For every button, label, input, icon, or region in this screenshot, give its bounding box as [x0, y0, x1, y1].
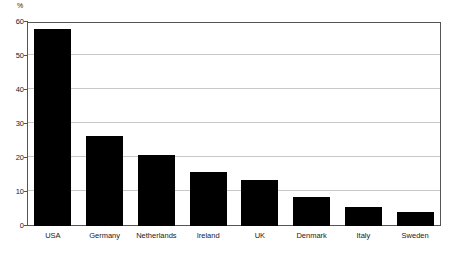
y-axis-tick-label: 20 — [2, 154, 24, 162]
y-axis-tick-labels: 0102030405060 — [0, 22, 24, 226]
x-axis-tick-label: UK — [234, 231, 286, 241]
x-axis-tick-label: Italy — [338, 231, 390, 241]
bar — [293, 197, 330, 226]
y-axis-tick-label: 50 — [2, 52, 24, 60]
bar — [34, 29, 71, 226]
bar-chart: % 0102030405060 USAGermanyNetherlandsIre… — [0, 0, 449, 257]
y-axis-unit-label: % — [17, 1, 23, 10]
bars-layer — [27, 22, 441, 226]
bar — [86, 136, 123, 226]
bar — [397, 212, 434, 226]
x-axis-tick-label: Sweden — [389, 231, 441, 241]
x-axis-tick-label: Denmark — [286, 231, 338, 241]
x-axis-tick-label: USA — [27, 231, 79, 241]
y-axis-tick-label: 30 — [2, 120, 24, 128]
x-axis-tick-label: Germany — [79, 231, 131, 241]
y-axis-tick-label: 0 — [2, 222, 24, 230]
y-axis-tick-label: 10 — [2, 188, 24, 196]
x-axis-tick-labels: USAGermanyNetherlandsIrelandUKDenmarkIta… — [27, 231, 441, 245]
y-axis-tick-label: 40 — [2, 86, 24, 94]
x-axis-tick-label: Ireland — [182, 231, 234, 241]
bar — [241, 180, 278, 226]
bar — [345, 207, 382, 226]
x-axis-tick-label: Netherlands — [131, 231, 183, 241]
y-axis-tick-label: 60 — [2, 18, 24, 26]
bar — [138, 155, 175, 226]
bar — [190, 172, 227, 226]
